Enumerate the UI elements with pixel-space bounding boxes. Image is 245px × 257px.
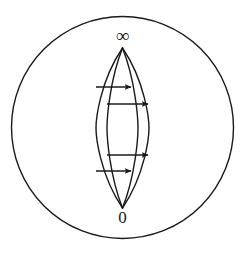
pole-label-zero: 0 <box>0 209 245 226</box>
lens-arc-group <box>96 48 149 208</box>
diagram-canvas: ∞ 0 <box>0 0 245 257</box>
flow-arrow-group <box>96 87 148 171</box>
pole-label-infinity: ∞ <box>0 26 245 45</box>
arc-outer-right <box>123 48 150 208</box>
arc-outer-left <box>96 48 123 208</box>
